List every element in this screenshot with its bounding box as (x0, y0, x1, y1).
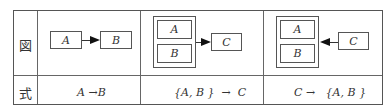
box-c: C (211, 33, 242, 51)
row-divider (14, 75, 382, 76)
connector-line (82, 40, 90, 41)
box-b: B (280, 44, 315, 63)
column-divider (140, 11, 141, 104)
arrow-left-icon (320, 38, 330, 46)
box-b: B (100, 31, 132, 49)
column-divider (37, 11, 38, 104)
connector-line (330, 42, 338, 43)
formula-1: A →B (77, 86, 106, 99)
formula-2: {A, B } → C (174, 86, 246, 99)
box-a: A (50, 31, 82, 49)
box-a: A (280, 20, 315, 39)
row-label-diagram: 図 (19, 35, 32, 54)
arrow-right-icon (201, 38, 211, 46)
relation-table: 図 式 A B A →B A B C {A, B } → C A B C C →… (13, 10, 383, 105)
box-b: B (157, 44, 192, 63)
column-divider (263, 11, 264, 104)
box-c: C (338, 32, 369, 50)
formula-3: C → {A, B } (294, 86, 366, 99)
row-label-formula: 式 (19, 83, 32, 102)
arrow-right-icon (90, 36, 100, 44)
box-a: A (157, 20, 192, 39)
